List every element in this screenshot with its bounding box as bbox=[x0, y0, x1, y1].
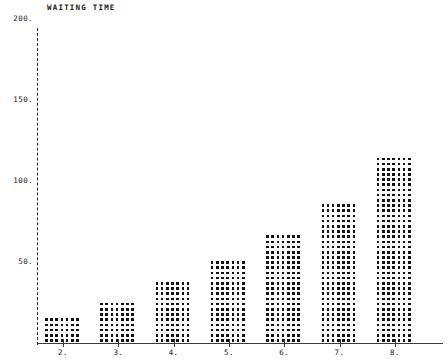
bar-dot bbox=[337, 339, 340, 342]
bar-dot bbox=[237, 339, 240, 342]
bar-dot bbox=[392, 235, 395, 238]
bar-dot bbox=[277, 334, 280, 337]
bar-dot bbox=[126, 313, 129, 316]
bar-dot bbox=[382, 261, 385, 264]
bar-dot bbox=[271, 318, 274, 321]
bar-dot bbox=[377, 256, 380, 259]
bar-dot bbox=[287, 334, 290, 337]
bar-dot bbox=[398, 313, 401, 316]
bar-dot bbox=[322, 246, 325, 249]
bar-dot bbox=[398, 303, 401, 306]
bar-dot bbox=[382, 324, 385, 327]
bar-dot bbox=[403, 209, 406, 212]
bar-dot bbox=[221, 339, 224, 342]
bar-dot bbox=[292, 277, 295, 280]
bar-7 bbox=[322, 203, 358, 343]
bar-dot bbox=[342, 230, 345, 233]
bar-dot bbox=[100, 334, 103, 337]
bar-dot bbox=[221, 287, 224, 290]
bar-dot bbox=[347, 230, 350, 233]
bar-dot bbox=[287, 277, 290, 280]
bar-dot bbox=[100, 308, 103, 311]
bar-dot bbox=[327, 292, 330, 295]
bar-dot bbox=[377, 189, 380, 192]
bar-dot bbox=[322, 318, 325, 321]
bar-dot bbox=[332, 241, 335, 244]
bar-dot bbox=[271, 235, 274, 238]
bar-dot bbox=[377, 261, 380, 264]
bar-dot bbox=[221, 266, 224, 269]
bar-dot bbox=[242, 313, 245, 316]
bar-dot bbox=[337, 235, 340, 238]
bar-dot bbox=[387, 235, 390, 238]
bar-dot-row bbox=[266, 338, 302, 343]
bar-dot bbox=[337, 220, 340, 223]
bar-dot bbox=[221, 318, 224, 321]
bar-dot bbox=[216, 334, 219, 337]
bar-dot bbox=[327, 298, 330, 301]
bar-dot bbox=[392, 246, 395, 249]
bar-dot bbox=[126, 324, 129, 327]
bars-layer bbox=[0, 0, 447, 360]
bar-dot bbox=[226, 334, 229, 337]
bar-dot bbox=[216, 324, 219, 327]
bar-dot bbox=[242, 292, 245, 295]
bar-dot bbox=[266, 235, 269, 238]
bar-dot bbox=[398, 324, 401, 327]
bar-dot bbox=[347, 256, 350, 259]
bar-dot bbox=[392, 163, 395, 166]
bar-dot bbox=[45, 324, 48, 327]
bar-dot bbox=[377, 163, 380, 166]
bar-dot bbox=[398, 287, 401, 290]
bar-dot bbox=[377, 339, 380, 342]
bar-dot bbox=[282, 298, 285, 301]
bar-dot bbox=[382, 194, 385, 197]
bar-dot bbox=[171, 282, 174, 285]
bar-dot bbox=[166, 324, 169, 327]
bar-dot bbox=[187, 287, 190, 290]
bar-dot bbox=[398, 235, 401, 238]
bar-dot bbox=[392, 318, 395, 321]
bar-dot bbox=[342, 277, 345, 280]
bar-dot bbox=[398, 204, 401, 207]
bar-dot bbox=[277, 272, 280, 275]
bar-dot bbox=[266, 329, 269, 332]
bar-dot bbox=[61, 334, 64, 337]
bar-dot bbox=[337, 225, 340, 228]
bar-dot bbox=[271, 256, 274, 259]
bar-dot bbox=[382, 292, 385, 295]
bar-dot bbox=[342, 308, 345, 311]
bar-dot bbox=[131, 318, 134, 321]
bar-dot bbox=[377, 282, 380, 285]
bar-dot bbox=[297, 251, 300, 254]
bar-dot bbox=[271, 303, 274, 306]
bar-dot bbox=[50, 324, 53, 327]
bar-dot bbox=[337, 324, 340, 327]
bar-dot bbox=[211, 339, 214, 342]
bar-dot bbox=[327, 318, 330, 321]
bar-dot bbox=[211, 334, 214, 337]
bar-dot bbox=[322, 277, 325, 280]
bar-dot bbox=[377, 287, 380, 290]
bar-dot bbox=[387, 173, 390, 176]
bar-dot bbox=[377, 178, 380, 181]
bar-dot bbox=[271, 287, 274, 290]
bar-dot bbox=[156, 303, 159, 306]
bar-dot bbox=[232, 272, 235, 275]
bar-dot bbox=[282, 246, 285, 249]
bar-dot bbox=[292, 261, 295, 264]
bar-dot bbox=[392, 324, 395, 327]
bar-dot bbox=[277, 303, 280, 306]
bar-dot bbox=[242, 287, 245, 290]
bar-dot bbox=[282, 334, 285, 337]
bar-dot bbox=[353, 215, 356, 218]
bar-dot bbox=[392, 277, 395, 280]
bar-dot bbox=[398, 194, 401, 197]
bar-dot bbox=[332, 215, 335, 218]
bar-dot bbox=[292, 313, 295, 316]
bar-dot bbox=[237, 292, 240, 295]
bar-dot bbox=[408, 261, 411, 264]
bar-dot bbox=[347, 287, 350, 290]
bar-dot bbox=[382, 334, 385, 337]
bar-dot bbox=[408, 292, 411, 295]
